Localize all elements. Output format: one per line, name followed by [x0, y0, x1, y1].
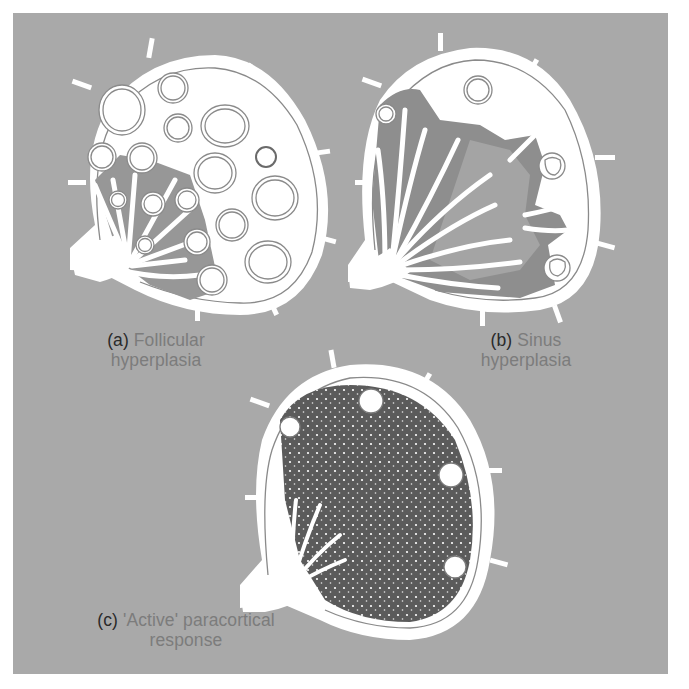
caption-a-title-1: Follicular — [134, 330, 205, 350]
node-b-sinus — [348, 33, 615, 326]
caption-b-tag: (b) — [491, 330, 513, 350]
caption-a: (a) Follicular hyperplasia — [91, 330, 221, 370]
caption-b: (b) Sinus hyperplasia — [456, 330, 596, 370]
caption-b-title-2: hyperplasia — [456, 350, 596, 370]
caption-c: (c) 'Active' paracortical response — [56, 610, 316, 650]
caption-c-tag: (c) — [97, 610, 118, 630]
caption-c-title-2: response — [56, 630, 316, 650]
caption-c-title-1: 'Active' paracortical — [123, 610, 275, 630]
caption-b-title-1: Sinus — [517, 330, 561, 350]
caption-a-title-2: hyperplasia — [91, 350, 221, 370]
figure-panel: (a) Follicular hyperplasia (b) Sinus hyp… — [13, 13, 668, 674]
node-c-paracortical — [240, 350, 508, 640]
node-a-follicular — [68, 38, 336, 321]
caption-a-tag: (a) — [107, 330, 129, 350]
